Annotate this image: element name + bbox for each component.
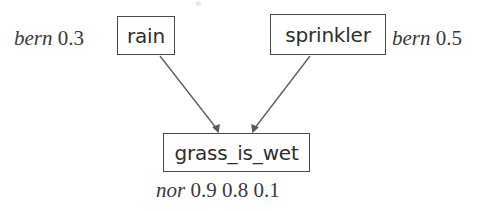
edge-rain-to-grass-arrowhead bbox=[212, 124, 220, 133]
node-rain-label: rain bbox=[127, 26, 165, 46]
edge-sprinkler-to-grass-line bbox=[255, 56, 311, 129]
node-grass-is-wet[interactable]: grass_is_wet bbox=[163, 133, 310, 172]
node-sprinkler[interactable]: sprinkler bbox=[270, 14, 386, 55]
cpd-rain-params: 0.3 bbox=[58, 26, 84, 50]
cpd-rain-keyword: bern bbox=[14, 26, 53, 50]
node-grass-is-wet-label: grass_is_wet bbox=[174, 143, 298, 163]
cpd-grass-is-wet-params: 0.9 0.8 0.1 bbox=[190, 178, 279, 202]
node-rain[interactable]: rain bbox=[117, 16, 175, 55]
edge-rain-to-grass-line bbox=[160, 56, 217, 129]
cpd-annotation-rain: bern 0.3 bbox=[14, 28, 84, 49]
edge-sprinkler-to-grass-arrowhead bbox=[251, 124, 259, 133]
cpd-annotation-grass-is-wet: nor 0.9 0.8 0.1 bbox=[156, 180, 280, 201]
edge-sprinkler-to-grass bbox=[251, 56, 310, 133]
cpd-grass-is-wet-keyword: nor bbox=[156, 178, 185, 202]
cpd-sprinkler-keyword: bern bbox=[392, 26, 431, 50]
diagram-canvas: rain sprinkler grass_is_wet bern 0.3 ber… bbox=[0, 0, 491, 213]
edge-rain-to-grass bbox=[160, 56, 220, 133]
cpd-sprinkler-params: 0.5 bbox=[436, 26, 462, 50]
cpd-annotation-sprinkler: bern 0.5 bbox=[392, 28, 462, 49]
scan-artifact-speck bbox=[196, 1, 201, 6]
node-sprinkler-label: sprinkler bbox=[285, 25, 370, 45]
